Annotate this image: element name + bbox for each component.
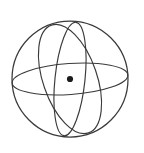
sphere-figure [0, 0, 144, 153]
sphere-diagram-svg [0, 0, 144, 153]
center-point-dot [67, 76, 73, 82]
